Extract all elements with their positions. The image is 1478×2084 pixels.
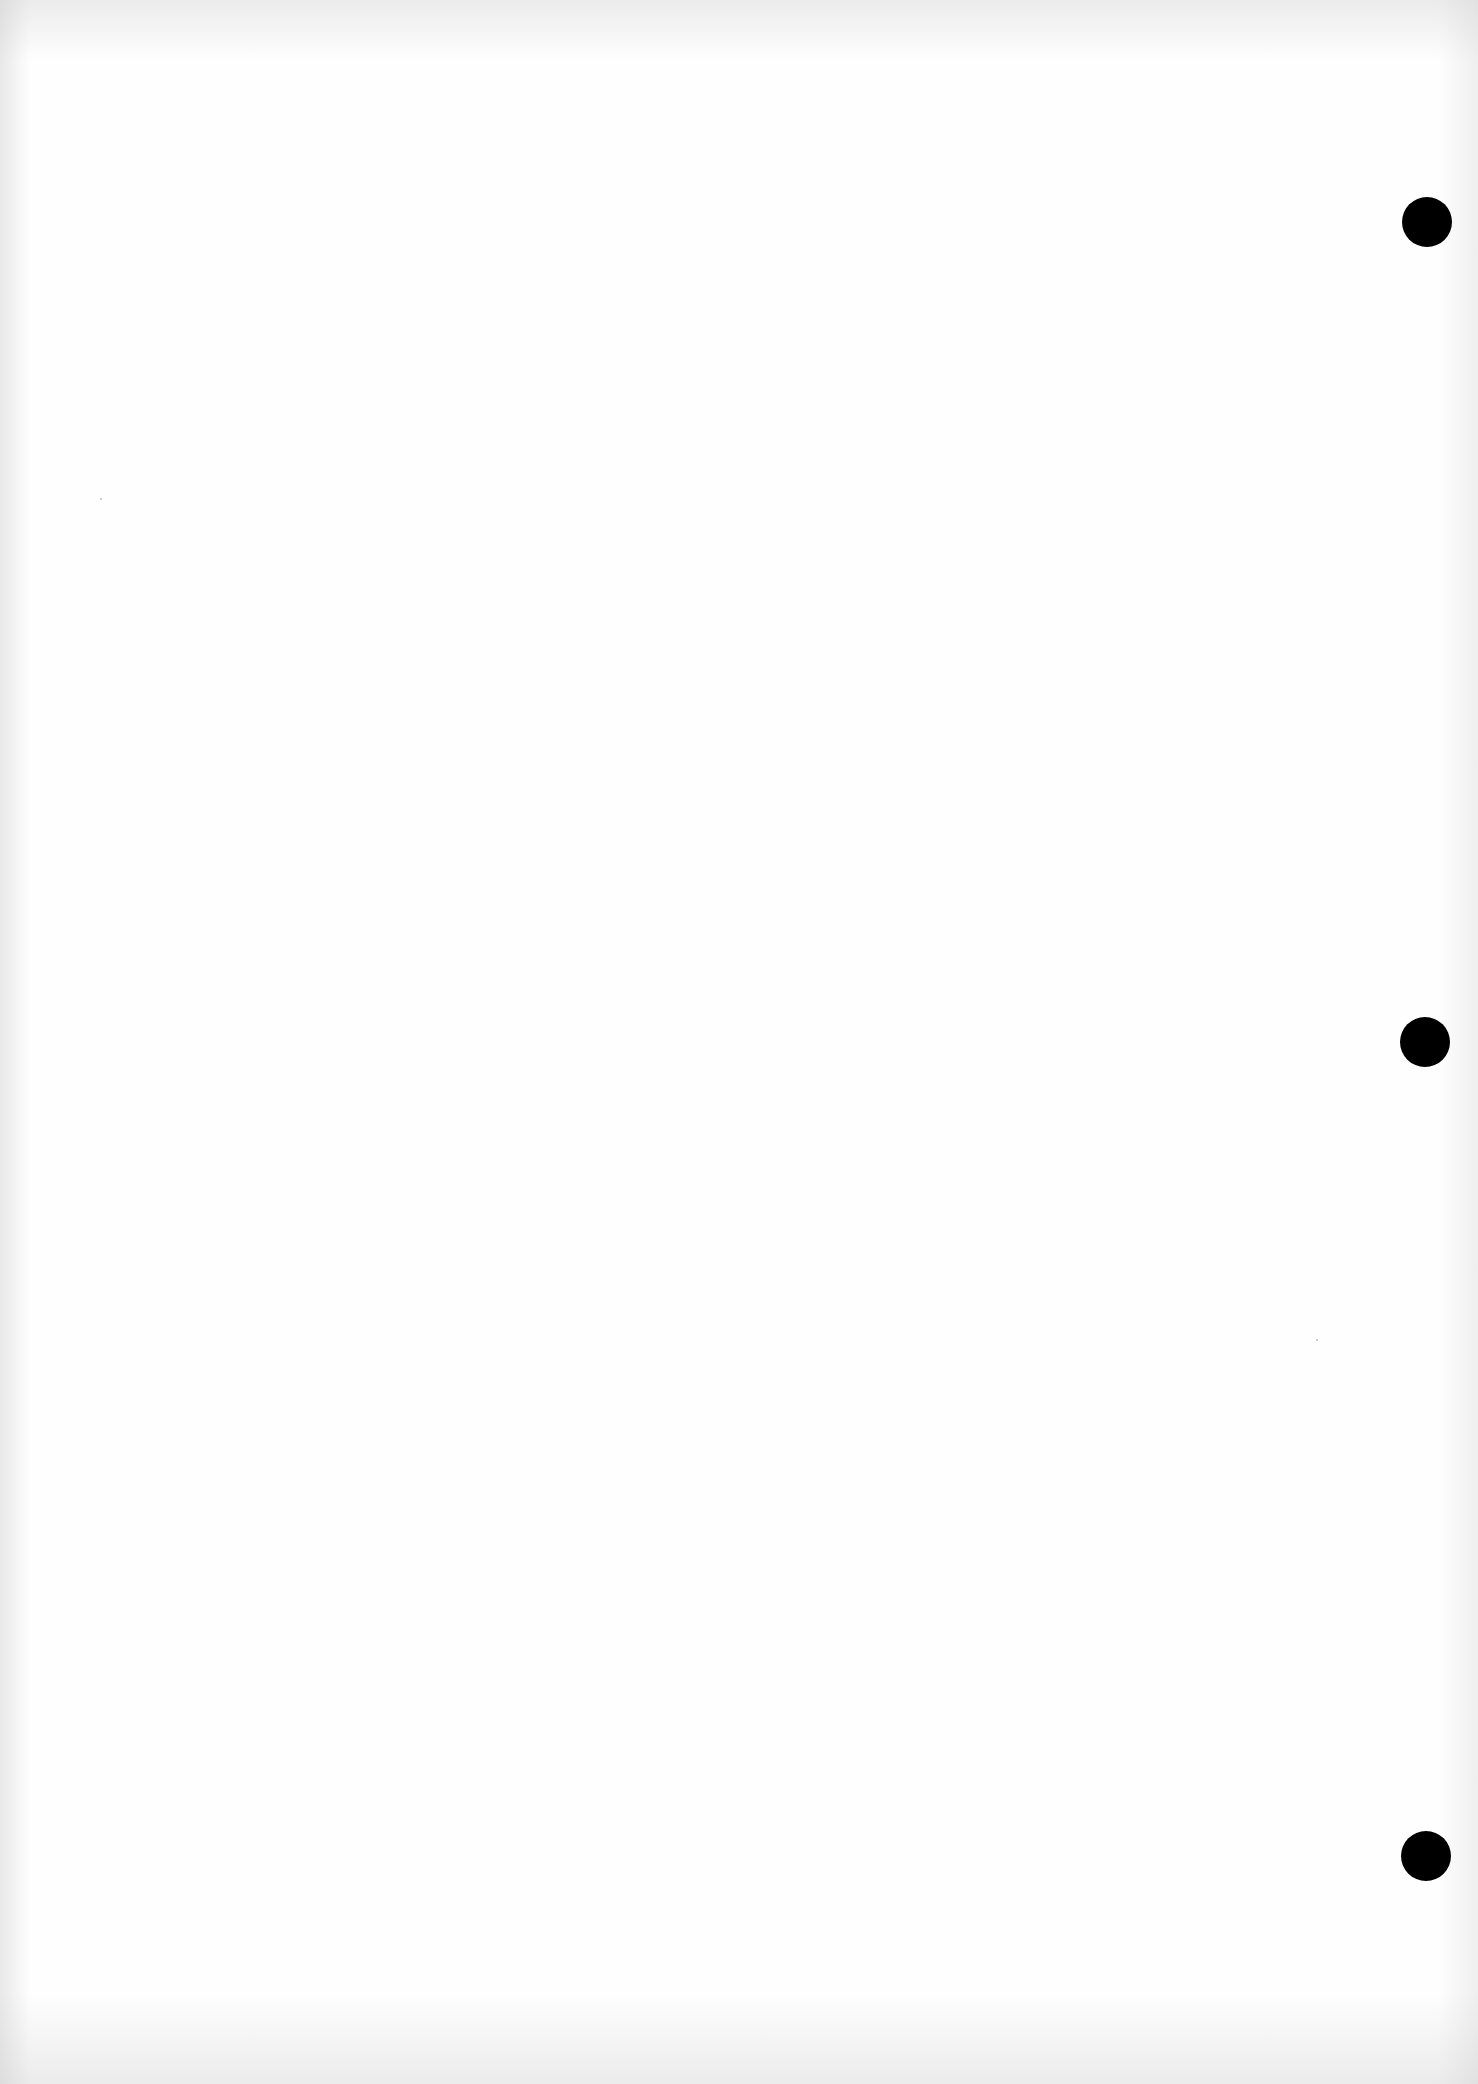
punch-hole-middle [1400, 1017, 1450, 1067]
scan-speck [100, 498, 102, 500]
punch-hole-top [1402, 197, 1452, 247]
scan-speck [1316, 1339, 1318, 1341]
punch-hole-bottom [1401, 1831, 1451, 1881]
blank-page [0, 0, 1478, 2084]
